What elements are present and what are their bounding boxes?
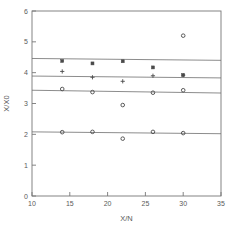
data-point	[91, 130, 95, 134]
y-axis-label: X/X0	[2, 95, 11, 111]
x-tick-label: 15	[66, 200, 74, 207]
data-point	[151, 66, 154, 69]
y-tick-label: 3	[24, 100, 28, 107]
data-point	[121, 60, 124, 63]
fit-line	[32, 76, 221, 78]
data-point	[181, 34, 185, 38]
scatter-plot: 0123456101520253035X/NX/X0	[0, 0, 234, 228]
plot-frame	[32, 11, 221, 196]
fit-line	[32, 90, 221, 93]
x-tick-label: 10	[28, 200, 36, 207]
y-tick-label: 6	[24, 8, 28, 15]
fit-line	[32, 58, 221, 60]
data-point	[181, 88, 185, 92]
x-tick-label: 20	[104, 200, 112, 207]
x-tick-label: 30	[179, 200, 187, 207]
x-tick-label: 35	[217, 200, 225, 207]
y-tick-label: 4	[24, 69, 28, 76]
data-point	[121, 137, 125, 141]
y-tick-label: 0	[24, 193, 28, 200]
data-point	[121, 103, 125, 107]
y-tick-label: 1	[24, 162, 28, 169]
data-point	[151, 91, 155, 95]
data-point	[61, 59, 64, 62]
data-point	[60, 87, 64, 91]
x-axis-label: X/N	[120, 214, 133, 223]
y-tick-label: 2	[24, 131, 28, 138]
x-tick-label: 25	[142, 200, 150, 207]
data-point	[91, 62, 94, 65]
y-tick-label: 5	[24, 38, 28, 45]
chart-container: 0123456101520253035X/NX/X0	[0, 0, 234, 228]
